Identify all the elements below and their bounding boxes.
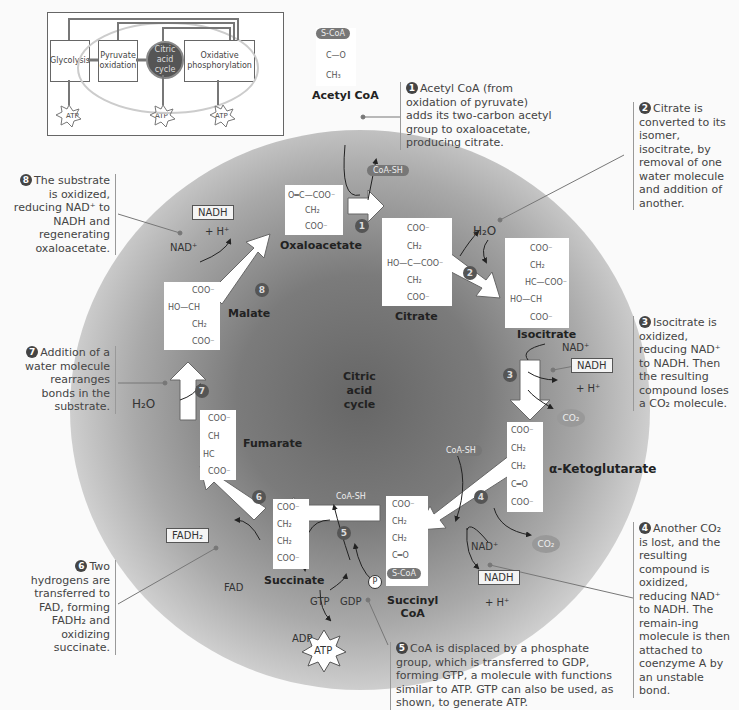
co2-bubble: CO₂ bbox=[557, 409, 585, 427]
gdp-label: GDP bbox=[340, 596, 361, 607]
note-step-3: 3Isocitrate is oxidized, reducing NAD⁺ t… bbox=[633, 316, 731, 411]
step-2-badge: 2 bbox=[463, 266, 477, 280]
fumarate-structure: COO⁻ CH HC COO⁻ bbox=[200, 410, 236, 480]
step-8-badge: 8 bbox=[255, 283, 269, 297]
coa-sh-pill: CoA-SH bbox=[330, 491, 372, 502]
adp-label: ADP bbox=[292, 633, 313, 644]
fumarate-label: Fumarate bbox=[243, 437, 302, 450]
nad-label: NAD⁺ bbox=[170, 242, 197, 253]
step-4-badge: 4 bbox=[474, 490, 488, 504]
citrate-label: Citrate bbox=[395, 310, 438, 323]
oxaloacetate-structure: O═C—COO⁻ CH₂ COO⁻ bbox=[285, 185, 343, 235]
citrate-structure: COO⁻ CH₂ HO—C—COO⁻ CH₂ COO⁻ bbox=[382, 218, 452, 306]
nadh-box: NADH bbox=[478, 570, 520, 585]
note-step-5: 5CoA is displaced by a phosphate group, … bbox=[390, 642, 621, 710]
isocitrate-structure: COO⁻ CH₂ HC—COO⁻ HO—CH COO⁻ bbox=[505, 238, 569, 328]
gtp-label: GTP bbox=[310, 596, 330, 607]
succinyl-coa-structure: COO⁻ CH₂ CH₂ C═O S-CoA bbox=[386, 496, 428, 586]
oxaloacetate-label: Oxaloacetate bbox=[280, 239, 362, 252]
note-step-7: 7Addition of a water molecule rearranges… bbox=[22, 346, 116, 414]
step-1-badge: 1 bbox=[355, 219, 369, 233]
malate-label: Malate bbox=[228, 307, 270, 320]
coa-sh-pill: CoA-SH bbox=[367, 165, 409, 176]
alpha-ketoglutarate-label: α-Ketoglutarate bbox=[549, 462, 656, 476]
co2-bubble: CO₂ bbox=[532, 535, 560, 553]
nadh-box: NADH bbox=[192, 205, 234, 220]
atp-label: ATP bbox=[314, 645, 332, 656]
succinate-structure: COO⁻ CH₂ CH₂ COO⁻ bbox=[273, 499, 309, 569]
h-plus-label: + H⁺ bbox=[576, 383, 600, 394]
citric-acid-cycle-label: Citricacidcycle bbox=[343, 370, 376, 412]
step-7-badge: 7 bbox=[195, 384, 209, 398]
h2o-label: H₂O bbox=[132, 397, 155, 411]
nad-label: NAD⁺ bbox=[562, 342, 589, 353]
acetyl-coa-label: Acetyl CoA bbox=[312, 89, 379, 102]
fad-label: FAD bbox=[224, 582, 243, 593]
nad-label: NAD⁺ bbox=[471, 541, 498, 552]
note-step-2: 2Citrate is converted to its isomer, iso… bbox=[633, 102, 731, 210]
malate-structure: COO⁻ HO—CH CH₂ COO⁻ bbox=[164, 282, 220, 350]
nadh-box: NADH bbox=[571, 358, 613, 373]
step-3-badge: 3 bbox=[503, 368, 517, 382]
note-step-8: 8The substrate is oxidized, reducing NAD… bbox=[10, 174, 116, 255]
alpha-ketoglutarate-structure: COO⁻ CH₂ CH₂ C═O COO⁻ bbox=[507, 422, 543, 512]
step-6-badge: 6 bbox=[252, 490, 266, 504]
fadh2-box: FADH₂ bbox=[166, 528, 209, 543]
step-5-badge: 5 bbox=[337, 526, 351, 540]
note-step-1: 1Acetyl CoA (from oxidation of pyruvate)… bbox=[400, 82, 556, 150]
h2o-label: H₂O bbox=[473, 224, 496, 238]
succinyl-coa-label: SuccinylCoA bbox=[387, 594, 438, 620]
note-step-4: 4Another CO₂ is lost, and the resulting … bbox=[633, 522, 733, 698]
isocitrate-label: Isocitrate bbox=[517, 328, 576, 341]
coa-sh-pill: CoA-SH bbox=[440, 445, 482, 456]
h-plus-label: + H⁺ bbox=[205, 226, 229, 237]
acetyl-coa-structure: S-CoA C—O CH₃ bbox=[316, 28, 356, 86]
h-plus-label: + H⁺ bbox=[485, 597, 509, 608]
succinate-label: Succinate bbox=[264, 574, 325, 587]
note-step-6: 6Two hydrogens are transferred to FAD, f… bbox=[22, 560, 116, 655]
phosphate-icon: P bbox=[368, 575, 382, 589]
